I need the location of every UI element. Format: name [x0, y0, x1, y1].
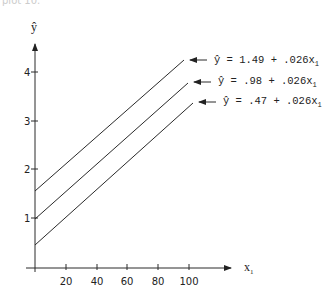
y-axis-label: ŷ [31, 20, 37, 34]
regression-line-1 [35, 60, 184, 191]
y-tick-label: 3 [24, 116, 30, 127]
x-tick-label: 40 [91, 276, 104, 287]
equation-label-3: ŷ = .47 + .026x1 [223, 95, 322, 109]
x-tick-label: 80 [152, 276, 165, 287]
y-ticks: 4 3 2 1 [24, 67, 38, 224]
cropped-header-text: plot 10. [2, 0, 40, 6]
x-tick-label: 100 [179, 276, 198, 287]
regression-line-2 [35, 83, 188, 219]
equation-label-1: ŷ = 1.49 + .026x1 [214, 54, 319, 68]
y-tick-label: 4 [24, 67, 30, 78]
regression-line-3 [35, 103, 193, 245]
regression-chart: plot 10. ŷ 4 3 2 1 x1 20 40 60 80 100 [0, 0, 335, 304]
x-tick-label: 20 [60, 276, 73, 287]
x-axis-label: x1 [244, 260, 254, 276]
y-tick-label: 1 [24, 213, 30, 224]
equation-label-2: ŷ = .98 + .026x1 [218, 75, 317, 89]
x-ticks: 20 40 60 80 100 [60, 264, 199, 287]
y-tick-label: 2 [24, 164, 30, 175]
x-tick-label: 60 [121, 276, 134, 287]
